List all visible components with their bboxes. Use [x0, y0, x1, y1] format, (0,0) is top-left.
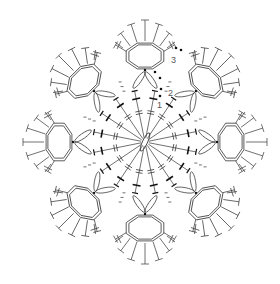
start-dot: [160, 88, 163, 91]
petal-right: [197, 110, 267, 173]
stitch-mark: [179, 163, 183, 170]
stitch-mark: [117, 103, 124, 107]
petal-lower-left: [36, 157, 130, 251]
petal-left: [23, 110, 93, 173]
stitch-mark: [166, 103, 173, 107]
start-dot: [159, 77, 162, 80]
round-label-1: 1: [157, 100, 162, 110]
stitch-mark: [133, 184, 141, 186]
crochet-diagram-svg: [0, 0, 280, 284]
stitch-mark: [101, 130, 103, 138]
petal-lower-right: [160, 157, 254, 251]
start-dot: [159, 95, 162, 98]
inner-spoke: [147, 145, 174, 185]
petal-bottom: [113, 194, 176, 264]
petal-upper-right: [160, 33, 254, 127]
round-label-3: 3: [171, 55, 176, 65]
inner-spoke: [148, 113, 188, 140]
stitch-mark: [101, 147, 103, 155]
start-dot: [175, 47, 178, 50]
stitch-mark: [150, 184, 158, 186]
petal-upper-left: [36, 33, 130, 127]
stitch-mark: [187, 146, 189, 154]
stitch-mark: [166, 176, 173, 180]
inner-spoke: [102, 144, 142, 171]
stitch-mark: [132, 98, 140, 100]
round-label-2: 2: [168, 88, 173, 98]
stitch-mark: [117, 176, 124, 180]
stitch-mark: [179, 114, 183, 121]
start-dot: [154, 71, 157, 74]
stitch-mark: [106, 114, 110, 121]
crochet-chart: 1 2 3: [0, 0, 280, 284]
start-dot: [180, 49, 183, 52]
stitch-mark: [106, 163, 110, 170]
stitch-mark: [187, 129, 189, 137]
petal-top: [113, 20, 176, 90]
